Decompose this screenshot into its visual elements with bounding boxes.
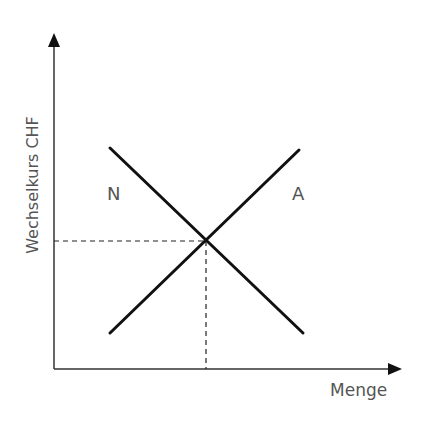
y-axis-arrow-icon xyxy=(48,33,60,47)
demand-label: N xyxy=(107,183,120,204)
supply-label: A xyxy=(292,183,305,204)
supply-demand-diagram: N A Wechselkurs CHF Menge xyxy=(0,0,432,423)
x-axis-label: Menge xyxy=(330,380,387,400)
x-axis-arrow-icon xyxy=(388,363,402,375)
y-axis-label: Wechselkurs CHF xyxy=(23,116,42,254)
